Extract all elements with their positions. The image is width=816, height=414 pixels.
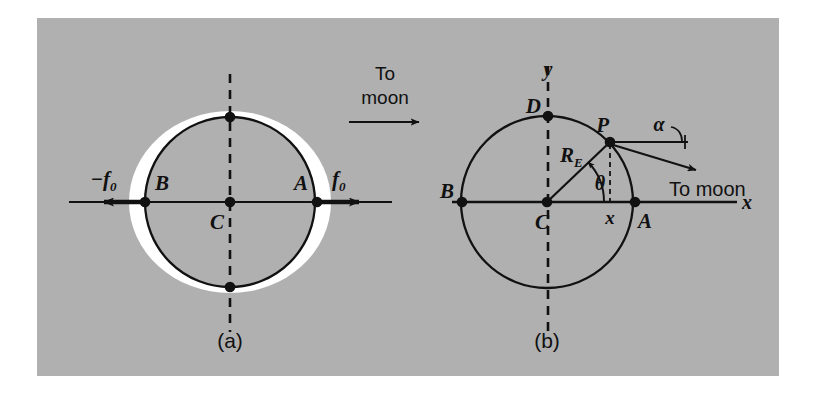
point-c-label-b: C [535,210,550,234]
alpha-leader-arc [671,127,682,141]
point-bottom-dot-a [225,282,236,293]
radius-label-subscript: E [573,155,583,170]
point-c-label-a: C [210,210,225,234]
force-right-subscript: 0 [339,179,346,194]
panel-a: B C A −f 0 f 0 (a) [69,74,392,352]
point-b-label-b: B [439,179,454,203]
to-moon-label-b: To moon [669,178,746,200]
point-c-dot-b [542,197,553,208]
point-b-dot-b [457,197,468,208]
point-a-dot-a [312,197,323,208]
radius-label: R [559,143,574,167]
figure-drawing: B C A −f 0 f 0 (a) To moon [37,18,779,376]
alpha-label: α [653,113,665,135]
point-top-dot-a [225,112,236,123]
y-axis-label: y [542,58,553,81]
force-left-label: −f [90,167,112,191]
force-left-subscript: 0 [110,179,117,194]
point-a-label-a: A [292,171,308,195]
panel-a-caption: (a) [217,329,243,352]
x-coordinate-label: x [604,207,615,228]
panel-b-caption: (b) [534,329,560,352]
to-moon-line1-center: To [375,63,395,84]
to-moon-line2-center: moon [361,87,409,108]
point-a-label-b: A [636,209,652,233]
to-moon-annotation-center: To moon [349,63,419,122]
point-b-dot-a [140,197,151,208]
point-a-dot-b [630,197,641,208]
point-p-dot-b [605,137,616,148]
to-moon-arrow-b [610,144,696,170]
point-b-label-a: B [154,171,169,195]
figure-gray-panel: B C A −f 0 f 0 (a) To moon [37,18,779,376]
theta-label: θ [595,172,606,194]
point-d-dot-b [543,111,554,122]
point-c-dot-a [225,197,236,208]
point-p-label-b: P [595,113,609,137]
figure-root: B C A −f 0 f 0 (a) To moon [0,0,816,414]
point-d-label-b: D [525,94,541,118]
panel-b: B C A D P y x R E θ α x To moon [439,58,752,352]
